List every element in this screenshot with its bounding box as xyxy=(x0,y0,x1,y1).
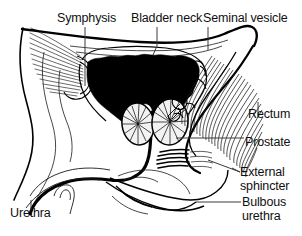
label-rectum: Rectum xyxy=(248,108,290,122)
label-prostate: Prostate xyxy=(245,136,290,150)
label-external-sphincter: External sphincter xyxy=(240,166,289,193)
label-seminal-vesicle: Seminal vesicle xyxy=(203,12,288,26)
label-bulbous-urethra: Bulbous urethra xyxy=(242,196,286,223)
label-bladder-neck: Bladder neck xyxy=(131,12,202,26)
anatomical-figure: Symphysis Bladder neck Seminal vesicle R… xyxy=(0,0,302,236)
label-symphysis: Symphysis xyxy=(57,12,116,26)
label-urethra: Urethra xyxy=(10,207,51,221)
